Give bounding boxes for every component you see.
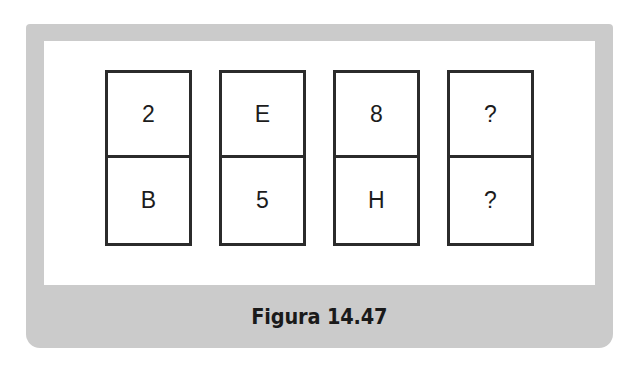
domino-row: 2 B E 5 8 H ? ? [105,70,534,246]
domino-box-4-top-cell: ? [450,73,531,158]
domino-box-1-top-cell: 2 [108,73,189,158]
domino-box-2: E 5 [219,70,306,246]
figure-caption-band: Figura 14.47 [26,285,613,348]
figure-container: 2 B E 5 8 H ? ? Figura 14.47 [0,0,637,372]
figure-panel: 2 B E 5 8 H ? ? Figura 14.47 [26,24,613,348]
domino-box-2-top-cell: E [222,73,303,158]
domino-box-4: ? ? [447,70,534,246]
domino-box-2-bottom-cell: 5 [222,158,303,243]
figure-white-plate: 2 B E 5 8 H ? ? [44,41,595,285]
domino-box-3: 8 H [333,70,420,246]
domino-box-4-bottom-cell: ? [450,158,531,243]
domino-box-3-bottom-cell: H [336,158,417,243]
domino-box-3-top-cell: 8 [336,73,417,158]
domino-box-1-bottom-cell: B [108,158,189,243]
domino-box-1: 2 B [105,70,192,246]
figure-caption: Figura 14.47 [252,304,388,329]
